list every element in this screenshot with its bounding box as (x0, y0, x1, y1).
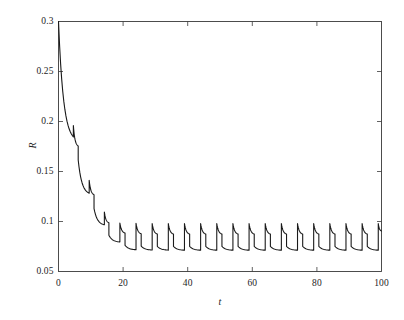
y-tick-label-5: 0.3 (41, 16, 53, 26)
x-tick-label-0: 0 (39, 278, 79, 288)
y-tick-label-1: 0.1 (41, 216, 53, 226)
chart-background (0, 0, 404, 320)
y-tick-label-2: 0.15 (36, 166, 53, 176)
x-tick-label-4: 80 (297, 278, 337, 288)
y-axis-title: R (26, 130, 37, 160)
x-tick-label-5: 100 (362, 278, 402, 288)
x-tick-label-1: 20 (103, 278, 143, 288)
figure-container: 0.050.10.150.20.250.3 020406080100 R t (0, 0, 404, 320)
x-axis-title: t (205, 296, 235, 307)
y-tick-label-3: 0.2 (41, 116, 53, 126)
y-tick-label-4: 0.25 (36, 66, 53, 76)
x-tick-label-2: 40 (168, 278, 208, 288)
chart-plot-area (0, 0, 404, 320)
x-tick-label-3: 60 (232, 278, 272, 288)
y-tick-label-0: 0.05 (36, 266, 53, 276)
